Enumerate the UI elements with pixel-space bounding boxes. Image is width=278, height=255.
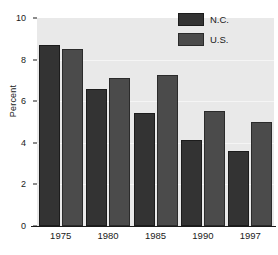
- bar-nc-1980: [86, 89, 107, 226]
- y-tick-label: 6: [21, 96, 26, 106]
- legend-item-nc: N.C.: [178, 12, 270, 27]
- y-tick-label: 4: [21, 138, 26, 148]
- y-axis-ticks: 0246810: [0, 0, 33, 255]
- x-tick-label: 1985: [145, 230, 166, 241]
- y-tick-label: 2: [21, 179, 26, 189]
- y-tick-label: 10: [16, 13, 26, 23]
- legend-swatch-us-icon: [178, 33, 204, 46]
- x-axis-line: [31, 226, 276, 227]
- bar-us-1980: [109, 78, 130, 226]
- y-tick-label: 0: [21, 221, 26, 231]
- x-axis-ticks: 19751980198519901997: [37, 230, 274, 250]
- x-tick-label: 1997: [240, 230, 261, 241]
- bar-nc-1990: [181, 140, 202, 226]
- bar-nc-1997: [228, 151, 249, 226]
- bar-us-1997: [251, 122, 272, 226]
- bar-us-1975: [62, 49, 83, 226]
- bar-nc-1985: [134, 113, 155, 226]
- bar-us-1985: [157, 75, 178, 226]
- legend-label-us: U.S.: [210, 34, 228, 45]
- legend-swatch-nc-icon: [178, 13, 204, 26]
- bar-chart-figure: Percent 0246810 19751980198519901997 N.C…: [0, 0, 278, 255]
- x-tick-label: 1975: [50, 230, 71, 241]
- x-tick-label: 1980: [98, 230, 119, 241]
- bar-nc-1975: [39, 45, 60, 226]
- chart-legend: N.C. U.S.: [178, 12, 270, 52]
- legend-label-nc: N.C.: [210, 14, 229, 25]
- y-tick-label: 8: [21, 55, 26, 65]
- bar-us-1990: [204, 111, 225, 226]
- legend-item-us: U.S.: [178, 32, 270, 47]
- x-tick-label: 1990: [192, 230, 213, 241]
